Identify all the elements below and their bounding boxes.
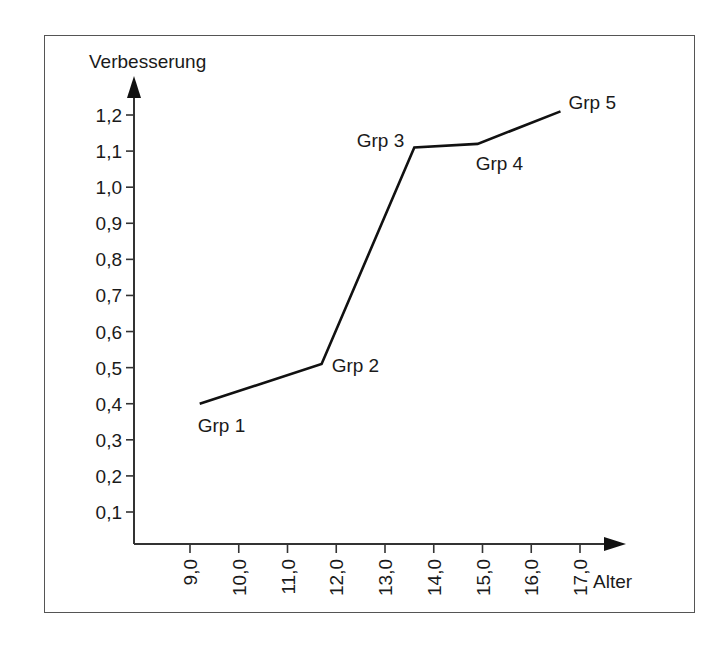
y-tick-label: 0,2 — [96, 466, 122, 487]
x-tick-label: 14,0 — [424, 559, 445, 596]
y-axis-label: Verbesserung — [89, 51, 206, 72]
x-tick-label: 13,0 — [375, 559, 396, 596]
y-tick-label: 0,1 — [96, 502, 122, 523]
y-tick-label: 0,8 — [96, 249, 122, 270]
y-axis-arrow-icon — [127, 76, 141, 98]
x-tick-label: 15,0 — [473, 559, 494, 596]
y-tick-label: 1,0 — [96, 177, 122, 198]
y-tick-label: 0,4 — [96, 394, 123, 415]
y-tick-label: 0,6 — [96, 322, 122, 343]
point-label: Grp 4 — [476, 153, 524, 174]
point-label: Grp 2 — [332, 355, 380, 376]
x-tick-label: 16,0 — [521, 559, 542, 596]
point-label: Grp 1 — [198, 415, 246, 436]
point-label: Grp 5 — [569, 92, 617, 113]
x-tick-label: 10,0 — [229, 559, 250, 596]
y-tick-label: 1,1 — [96, 141, 122, 162]
y-tick-label: 0,3 — [96, 430, 122, 451]
y-tick-label: 0,5 — [96, 358, 122, 379]
x-tick-label: 12,0 — [326, 559, 347, 596]
x-tick-label: 11,0 — [278, 559, 299, 595]
x-tick-label: 17,0 — [570, 559, 591, 596]
line-chart: 0,10,20,30,40,50,60,70,80,91,01,11,2 9,0… — [0, 0, 727, 645]
x-axis-label: Alter — [593, 571, 633, 592]
y-tick-label: 0,7 — [96, 285, 122, 306]
y-tick-label: 0,9 — [96, 213, 122, 234]
y-tick-label: 1,2 — [96, 105, 122, 126]
x-axis-ticks: 9,010,011,012,013,014,015,016,017,0 — [180, 544, 591, 596]
x-axis-arrow-icon — [604, 537, 626, 551]
point-label: Grp 3 — [357, 130, 405, 151]
y-axis-ticks: 0,10,20,30,40,50,60,70,80,91,01,11,2 — [96, 105, 134, 523]
x-tick-label: 9,0 — [180, 559, 201, 585]
